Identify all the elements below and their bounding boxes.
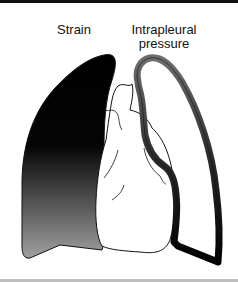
lung-diagram xyxy=(0,0,238,282)
